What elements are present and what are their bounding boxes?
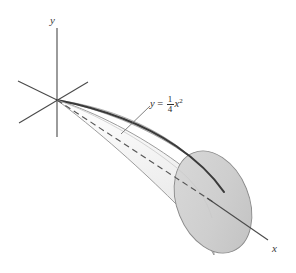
y-axis-label: y [50, 15, 55, 26]
coordinate-axes [18, 28, 92, 137]
equation-equals-sign: = [157, 99, 163, 110]
equation-label: y = 1 4 x 2 [150, 95, 183, 114]
equation-fraction: 1 4 [167, 95, 174, 114]
paraboloid-figure: y x y = 1 4 x 2 [0, 0, 296, 273]
fraction-numerator: 1 [167, 95, 174, 104]
x-axis-label: x [272, 243, 277, 254]
paraboloid-surface [57, 100, 266, 265]
equation-lhs: y [150, 99, 155, 110]
figure-canvas [0, 0, 296, 273]
equation-exponent: 2 [179, 98, 183, 105]
x-axis-near-origin-line [19, 82, 88, 123]
fraction-denominator: 4 [167, 105, 174, 114]
